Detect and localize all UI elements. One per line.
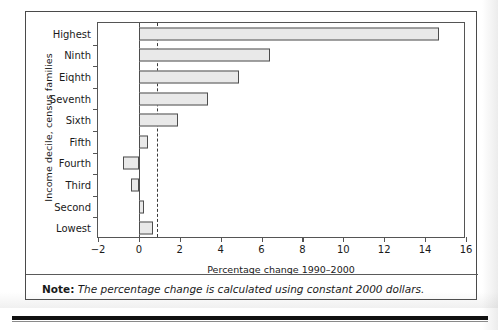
x-tick-label-12: 12 bbox=[378, 244, 391, 255]
note-text: The percentage change is calculated usin… bbox=[78, 283, 425, 295]
x-tick-label-8: 8 bbox=[299, 244, 305, 255]
category-row: Sixth bbox=[98, 109, 464, 131]
y-tick-label-seventh: Seventh bbox=[50, 93, 91, 104]
note-divider bbox=[26, 274, 478, 275]
x-axis-tick bbox=[98, 237, 99, 242]
x-axis-tick bbox=[180, 237, 181, 242]
y-axis-tick bbox=[93, 217, 98, 218]
y-tick-label-fifth: Fifth bbox=[70, 136, 91, 147]
y-tick-label-ninth: Ninth bbox=[64, 50, 91, 61]
plot-area: LowestSecondThirdFourthFifthSixthSeventh… bbox=[97, 22, 465, 238]
x-tick-label-4: 4 bbox=[217, 244, 223, 255]
x-axis-tick bbox=[466, 237, 467, 242]
figure-frame: Income decile, census families LowestSec… bbox=[25, 11, 477, 300]
bar-fifth bbox=[139, 135, 148, 148]
bar-second bbox=[139, 200, 144, 213]
x-tick-label-14: 14 bbox=[419, 244, 432, 255]
bar-lowest bbox=[139, 222, 153, 235]
y-tick-label-fourth: Fourth bbox=[59, 158, 91, 169]
x-axis-tick bbox=[139, 237, 140, 242]
x-axis-tick bbox=[343, 237, 344, 242]
x-tick-label-2: 2 bbox=[177, 244, 183, 255]
y-axis-tick bbox=[93, 174, 98, 175]
bar-eiqhth bbox=[139, 70, 239, 83]
note-label: Note: bbox=[42, 283, 74, 295]
category-row: Eiqhth bbox=[98, 66, 464, 88]
bar-third bbox=[131, 178, 139, 191]
category-row: Ninth bbox=[98, 45, 464, 67]
y-axis-tick bbox=[93, 131, 98, 132]
y-axis-tick bbox=[93, 153, 98, 154]
x-axis-tick bbox=[262, 237, 263, 242]
y-tick-label-lowest: Lowest bbox=[56, 223, 91, 234]
y-tick-label-second: Second bbox=[54, 201, 91, 212]
bar-seventh bbox=[139, 92, 209, 105]
x-tick-label-neg2: −2 bbox=[91, 244, 106, 255]
x-axis-tick bbox=[221, 237, 222, 242]
x-tick-label-6: 6 bbox=[258, 244, 264, 255]
bar-ninth bbox=[139, 49, 270, 62]
category-row: Fifth bbox=[98, 131, 464, 153]
category-row: Lowest bbox=[98, 217, 464, 239]
y-axis-title: Income decile, census families bbox=[43, 28, 54, 228]
note-row: Note: The percentage change is calculate… bbox=[42, 282, 462, 296]
category-row: Fourth bbox=[98, 153, 464, 175]
scan-edge-shadow-right bbox=[482, 0, 498, 330]
bar-sixth bbox=[139, 114, 178, 127]
y-tick-label-sixth: Sixth bbox=[66, 115, 91, 126]
y-axis-tick bbox=[93, 88, 98, 89]
category-row: Highest bbox=[98, 23, 464, 45]
y-tick-label-highest: Highest bbox=[53, 28, 91, 39]
x-tick-label-0: 0 bbox=[136, 244, 142, 255]
y-axis-tick bbox=[93, 109, 98, 110]
category-row: Third bbox=[98, 174, 464, 196]
y-axis-tick bbox=[93, 196, 98, 197]
y-axis-tick bbox=[93, 66, 98, 67]
x-axis-tick bbox=[384, 237, 385, 242]
category-row: Seventh bbox=[98, 88, 464, 110]
y-tick-label-third: Third bbox=[65, 179, 91, 190]
bottom-rule bbox=[12, 316, 488, 320]
x-axis-tick bbox=[425, 237, 426, 242]
chart-area: Income decile, census families LowestSec… bbox=[26, 12, 478, 262]
y-axis-tick bbox=[93, 45, 98, 46]
x-tick-label-10: 10 bbox=[337, 244, 350, 255]
y-tick-label-eiqhth: Eiqhth bbox=[59, 71, 91, 82]
category-row: Second bbox=[98, 196, 464, 218]
x-axis-tick bbox=[302, 237, 303, 242]
x-tick-label-16: 16 bbox=[460, 244, 473, 255]
bar-fourth bbox=[123, 157, 139, 170]
bar-highest bbox=[139, 27, 440, 40]
